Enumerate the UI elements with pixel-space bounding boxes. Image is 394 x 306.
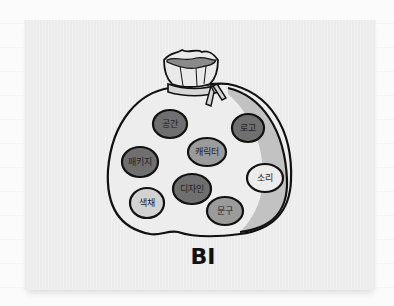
bi-bag-illustration: 공간 로고 캐릭터 패키지 소리 디자인 색채 문구 BI [0, 0, 394, 306]
svg-text:패키지: 패키지 [128, 157, 152, 167]
bi-title: BI [191, 244, 216, 269]
svg-text:캐릭터: 캐릭터 [195, 146, 219, 157]
keyword-circle-color: 색채 [130, 188, 164, 218]
svg-text:디자인: 디자인 [180, 184, 204, 194]
keyword-circle-logo: 로고 [232, 114, 264, 142]
svg-text:소리: 소리 [257, 173, 273, 183]
svg-text:공간: 공간 [162, 119, 178, 129]
keyword-circle-design: 디자인 [173, 174, 211, 204]
keyword-circle-package: 패키지 [122, 147, 158, 177]
keyword-circle-space: 공간 [153, 110, 187, 138]
keyword-circle-sound: 소리 [247, 164, 283, 192]
svg-text:로고: 로고 [240, 123, 256, 133]
svg-text:문구: 문구 [217, 206, 233, 216]
keyword-circle-character: 캐릭터 [188, 138, 226, 166]
svg-text:색채: 색채 [139, 198, 155, 208]
keyword-circle-copy: 문구 [207, 197, 243, 225]
